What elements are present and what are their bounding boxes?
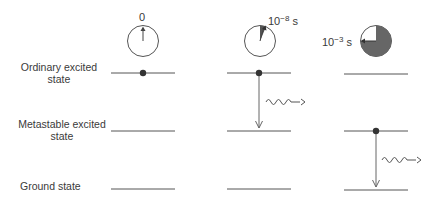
label-line: state: [14, 73, 104, 85]
time-unit: s: [292, 15, 298, 27]
time-exponent: −3: [334, 35, 343, 44]
label-line: Metastable excited: [14, 118, 110, 130]
column-1-levels: [111, 70, 175, 189]
clock-label-0: 0: [139, 11, 145, 23]
clock-icon-t1e-8: [245, 25, 276, 56]
photon-wave-icon: [382, 158, 416, 163]
label-metastable-excited-state: Metastable excited state: [14, 118, 110, 142]
electron-dot: [256, 70, 262, 76]
photon-wave-icon: [266, 100, 300, 105]
clock-label-1e-8: 10−8 s: [268, 14, 298, 27]
electron-dot: [373, 128, 379, 134]
clock-label-1e-3: 10−3 s: [322, 35, 352, 48]
label-line: Ordinary excited: [14, 61, 104, 73]
time-exponent: −8: [280, 14, 289, 23]
column-3-levels: [344, 74, 421, 190]
label-line: state: [14, 130, 110, 142]
label-ground-state: Ground state: [20, 180, 85, 192]
column-2-levels: [227, 70, 305, 189]
clock-icon-t1e-3: [361, 26, 392, 57]
label-ordinary-excited-state: Ordinary excited state: [14, 61, 104, 85]
time-base: 10: [268, 15, 280, 27]
time-value: 0: [139, 11, 145, 23]
label-line: Ground state: [20, 180, 85, 192]
electron-dot: [140, 70, 146, 76]
energy-level-diagram: [0, 0, 436, 203]
clock-icon-t0: [128, 26, 159, 57]
time-base: 10: [322, 36, 334, 48]
time-unit: s: [346, 36, 352, 48]
